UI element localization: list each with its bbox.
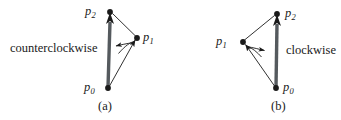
panel-b-edge-p2-p1 [245,16,275,41]
panel-a-caption: (a) [98,100,112,113]
panel-b-label-p2: p2 [285,7,296,20]
panel-b-edge-p0-p1 [246,45,275,87]
panel-b-graphics [240,11,281,91]
panel-a-orientation-label: counterclockwise [10,42,97,55]
panel-a-label-p0: p0 [84,81,95,94]
panel-b-vertex-dot-p1 [240,39,246,45]
panel-a-edge-p0-p2-shaft [108,22,110,87]
panel-b-edge-p0-p2-shaft [276,24,277,87]
panel-b-label-p1: p1 [216,35,227,48]
panel-a-turn-arc [116,43,134,47]
panel-b-caption: (b) [271,100,286,113]
panel-a-edge-p2-p1 [113,14,137,37]
panel-a-edge-p0-p1 [110,40,136,86]
panel-a-vertex-dot-p1 [134,35,140,41]
panel-b-vertex-dot-p0 [273,85,279,91]
panel-a-vertex-dot-p2 [107,9,113,15]
panel-a-label-p1: p1 [143,31,154,44]
panel-b-label-p0: p0 [283,81,294,94]
orientation-figure: p0 p1 p2 counterclockwise (a) p0 p1 p2 c… [0,0,341,120]
panel-a-label-p2: p2 [85,5,96,18]
panel-b-vertex-dot-p2 [274,11,280,17]
panel-a-graphics [105,9,140,91]
panel-a-vertex-dot-p0 [105,85,111,91]
panel-b-orientation-label: clockwise [286,44,336,57]
